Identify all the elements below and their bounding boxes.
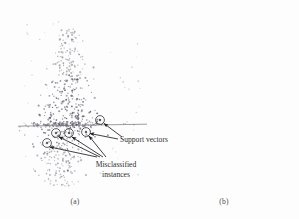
misclassified-instances-label: Misclassified instances [85, 160, 147, 179]
panel-b-caption: (b) [149, 197, 299, 206]
support-vectors-label: Support vectors [120, 135, 168, 145]
panel-a-caption: (a) [0, 197, 150, 206]
arrow-support-vector-2 [90, 134, 118, 140]
misclassified-label-line-2: instances [102, 170, 130, 179]
figure-container: Support vectors Misclassified instances … [0, 0, 299, 219]
annotation-arrows-svg [0, 0, 299, 219]
arrow-misclassified-3 [59, 137, 100, 157]
misclassified-label-line-1: Misclassified [96, 160, 137, 169]
